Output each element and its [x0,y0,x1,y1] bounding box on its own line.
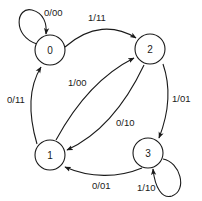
state-0: 0 [35,35,65,65]
transition-0-to-2 [65,29,136,47]
state-2-label: 2 [147,44,153,55]
state-1: 1 [35,140,65,170]
transition-label-1-to-2: 1/00 [68,77,87,88]
transition-label-0-to-0: 0/00 [44,7,63,18]
state-1-label: 1 [47,150,53,161]
transition-label-1-to-0: 0/11 [7,94,25,105]
state-3-label: 3 [145,148,151,159]
transition-label-2-to-1: 0/10 [116,117,135,128]
transition-1-to-0 [31,67,41,144]
state-0-label: 0 [47,45,53,56]
state-3: 3 [133,138,163,168]
state-2: 2 [135,34,165,64]
transition-label-2-to-3: 1/01 [172,93,191,104]
state-diagram: 0 2 1 3 0/00 1/11 1/01 1/10 0/01 0/11 1/… [0,0,202,201]
transition-label-0-to-2: 1/11 [88,12,106,23]
transition-3-to-1 [65,167,142,175]
transition-label-3-to-3: 1/10 [137,182,156,193]
transition-label-3-to-1: 0/01 [92,180,111,191]
transition-2-to-3 [159,64,168,138]
